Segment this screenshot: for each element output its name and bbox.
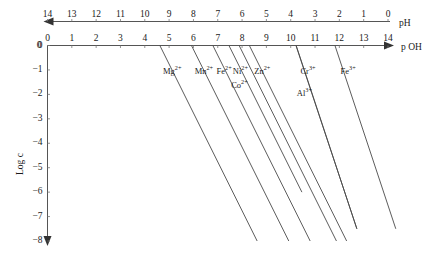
poh-tick-10: 10 [282, 34, 300, 44]
poh-tick-4: 4 [136, 34, 154, 44]
poh-tick-12: 12 [330, 34, 348, 44]
y-tick--2: −2 [24, 89, 43, 99]
poh-tick-1: 1 [63, 34, 81, 44]
y-tick--5: −5 [24, 163, 43, 173]
ph-tick-9: 9 [160, 10, 178, 20]
ph-tick-13: 13 [63, 10, 81, 20]
ph-tick-8: 8 [184, 10, 202, 20]
ph-tick-3: 3 [306, 10, 324, 20]
poh-tick-9: 9 [257, 34, 275, 44]
poh-tick-2: 2 [87, 34, 105, 44]
ph-axis-title: pH [399, 19, 411, 29]
series-label-Fe2+: Fe2+ [217, 67, 232, 76]
poh-tick-6: 6 [184, 34, 202, 44]
series-label-Co2+: Co2+ [231, 81, 248, 90]
solubility-log-c-chart: 14131211109876543210 0123456789101112131… [0, 0, 434, 262]
poh-tick-14: 14 [379, 34, 397, 44]
poh-tick-11: 11 [306, 34, 324, 44]
poh-tick-13: 13 [355, 34, 373, 44]
y-axis-title: Log c [16, 153, 26, 175]
ph-tick-14: 14 [39, 10, 57, 20]
y-tick--1: −1 [24, 65, 43, 75]
y-tick--6: −6 [24, 187, 43, 197]
poh-axis-title: p OH [401, 43, 422, 53]
poh-tick-8: 8 [233, 34, 251, 44]
series-label-Ni2+: Ni2+ [233, 67, 248, 76]
ph-tick-12: 12 [87, 10, 105, 20]
series-label-Al3+: Al3+ [297, 89, 312, 98]
y-tick--4: −4 [24, 138, 43, 148]
poh-tick-3: 3 [111, 34, 129, 44]
series-label-Zn2+: Zn2+ [254, 67, 270, 76]
ph-tick-10: 10 [136, 10, 154, 20]
y-tick--7: −7 [24, 212, 43, 222]
ph-tick-2: 2 [330, 10, 348, 20]
ph-tick-11: 11 [111, 10, 129, 20]
series-label-Mn2+: Mn2+ [195, 67, 213, 76]
y-tick--8: −8 [24, 236, 43, 246]
series-label-Mg2+: Mg2+ [163, 67, 181, 76]
poh-tick-7: 7 [209, 34, 227, 44]
series-label-Fe3+: Fe3+ [341, 67, 356, 76]
ph-tick-7: 7 [209, 10, 227, 20]
y-tick--3: −3 [24, 114, 43, 124]
ph-tick-5: 5 [257, 10, 275, 20]
poh-tick-5: 5 [160, 34, 178, 44]
poh-origin-label: 0 [28, 41, 42, 51]
ph-tick-6: 6 [233, 10, 251, 20]
ph-tick-0: 0 [379, 10, 397, 20]
ph-tick-1: 1 [355, 10, 373, 20]
ph-tick-4: 4 [282, 10, 300, 20]
series-label-Cr3+: Cr3+ [300, 67, 315, 76]
